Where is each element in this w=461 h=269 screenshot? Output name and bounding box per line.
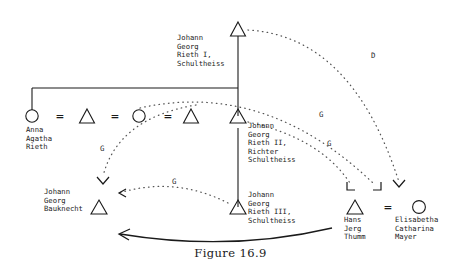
- arrowhead-bracket-bauknecht-g: [119, 189, 126, 197]
- arc-label-g-right-upper: G: [319, 110, 323, 119]
- arrowhead-bracket-right-thumm: [373, 182, 381, 190]
- arrowhead-chevron-elisabetha: [393, 180, 405, 187]
- person-symbol-elisabetha-catharina-mayer[interactable]: [413, 201, 426, 214]
- arc-label-g-left: G: [100, 144, 104, 153]
- arc-label-g-bottom: G: [172, 177, 176, 186]
- person-symbol-spouse-circle-2[interactable]: [133, 110, 145, 122]
- arc-label-d: D: [371, 51, 375, 60]
- label-rieth-i: Johann Georg Rieth I, Schultheiss: [177, 34, 225, 68]
- person-symbol-hans-jerg-thumm[interactable]: [347, 200, 363, 214]
- kinship-diagram: [0, 0, 461, 269]
- arc-label-g-right-lower: G: [327, 139, 331, 148]
- arrowhead-bracket-left-thumm: [347, 182, 355, 190]
- label-elisabetha-catharina-mayer: Elisabetha Catharina Mayer: [395, 216, 438, 242]
- person-symbol-bauknecht[interactable]: [91, 200, 107, 214]
- person-symbol-spouse-triangle-1[interactable]: [80, 109, 95, 123]
- arrowhead-chevron-bauknecht: [97, 177, 109, 184]
- dotted-arc-g-4: [119, 186, 228, 203]
- figure-page: Johann Georg Rieth I, Schultheiss Anna A…: [0, 0, 461, 269]
- label-bauknecht: Johann Georg Bauknecht: [44, 188, 83, 214]
- marriage-sign-3: =: [164, 108, 172, 123]
- person-symbol-anna-agatha-rieth[interactable]: [26, 110, 38, 122]
- label-anna-agatha-rieth: Anna Agatha Rieth: [26, 126, 52, 152]
- label-hans-jerg-thumm: Hans Jerg Thumm: [344, 216, 366, 242]
- label-rieth-ii: Johann Georg Rieth II, Richter Schulthei…: [248, 122, 296, 165]
- person-symbol-rieth-i[interactable]: [231, 22, 246, 36]
- label-rieth-iii: Johann Georg Rieth III, Schultheiss: [248, 191, 296, 225]
- figure-caption: Figure 16.9: [0, 246, 461, 260]
- marriage-sign-2: =: [111, 108, 119, 123]
- marriage-sign-4: =: [384, 199, 392, 214]
- marriage-sign-1: =: [56, 108, 64, 123]
- person-symbol-spouse-triangle-2[interactable]: [184, 109, 199, 123]
- solid-arrow-bottom: [120, 228, 332, 242]
